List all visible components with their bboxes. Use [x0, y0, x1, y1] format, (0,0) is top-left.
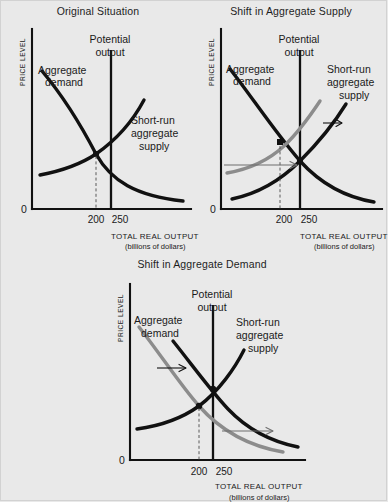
sras-label-line3: supply	[139, 140, 170, 152]
origin-label: 0	[119, 454, 125, 466]
x-axis-label-line2: (billions of dollars)	[229, 493, 290, 502]
aggregate-demand-label-line1: Aggregate	[226, 63, 275, 75]
sras-label-line2: aggregate	[236, 329, 283, 341]
x-axis-label-line2: (billions of dollars)	[125, 242, 186, 251]
xtick-200: 200	[276, 214, 293, 225]
xtick-200: 200	[191, 466, 208, 477]
potential-output-label-line1: Potential	[192, 288, 233, 300]
sras-label-line3: supply	[339, 89, 370, 101]
aggregate-demand-label-line1: Aggregate	[38, 64, 87, 76]
y-axis-label: PRICE LEVEL	[117, 294, 124, 342]
short-run-aggregate-supply-curve	[40, 100, 144, 175]
sras-label-line1: Short-run	[131, 114, 175, 126]
x-axis-label-line1: TOTAL REAL OUTPUT	[111, 232, 199, 241]
xtick-200: 200	[88, 214, 105, 225]
y-axis-label: PRICE LEVEL	[19, 38, 26, 86]
potential-output-label-line2: output	[284, 46, 313, 58]
x-axis-label-line2: (billions of dollars)	[314, 242, 375, 251]
xtick-250: 250	[216, 466, 233, 477]
panel-shift-in-aggregate-demand: Shift in Aggregate Demand PRICE LEVEL 0	[93, 254, 311, 502]
sras-label-line3: supply	[248, 342, 279, 354]
aggregate-demand-label-line1: Aggregate	[134, 314, 183, 326]
potential-output-label-line1: Potential	[279, 33, 320, 45]
initial-equilibrium-point	[277, 139, 283, 145]
aggregate-demand-label-line2: demand	[141, 327, 179, 339]
chart-original-situation: PRICE LEVEL 0 Aggregate demand Potential…	[1, 1, 195, 251]
new-equilibrium-point	[210, 386, 216, 392]
xtick-250: 250	[301, 214, 318, 225]
panel-original-situation: Original Situation PRICE LEVEL 0 Aggrega…	[1, 1, 195, 251]
short-run-aggregate-supply-original-curve	[227, 101, 320, 173]
origin-label: 0	[21, 203, 27, 215]
sras-label-line1: Short-run	[327, 63, 371, 75]
chart-shift-in-aggregate-demand: PRICE LEVEL 0	[93, 254, 311, 502]
sras-label-line1: Short-run	[236, 316, 280, 328]
aggregate-demand-label-line2: demand	[233, 75, 271, 87]
panel-shift-in-aggregate-supply: Shift in Aggregate Supply PRICE LEVEL 0	[194, 1, 388, 251]
chart-shift-in-aggregate-supply: PRICE LEVEL 0	[194, 1, 388, 251]
potential-output-label-line1: Potential	[90, 33, 131, 45]
sras-label-line2: aggregate	[131, 127, 178, 139]
new-equilibrium-point	[297, 158, 303, 164]
y-axis-label: PRICE LEVEL	[208, 38, 215, 86]
potential-output-label-line2: output	[197, 301, 226, 313]
potential-output-label-line2: output	[95, 46, 124, 58]
sras-label-line2: aggregate	[327, 76, 374, 88]
origin-label: 0	[210, 203, 216, 215]
x-axis-label-line1: TOTAL REAL OUTPUT	[215, 482, 303, 491]
aggregate-demand-label-line2: demand	[45, 76, 83, 88]
x-axis-label-line1: TOTAL REAL OUTPUT	[300, 232, 388, 241]
xtick-250: 250	[112, 214, 129, 225]
